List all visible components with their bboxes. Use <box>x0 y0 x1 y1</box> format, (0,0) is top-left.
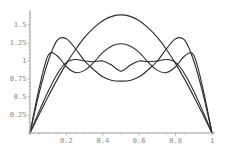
curve-line <box>30 60 212 133</box>
y-tick-label: 0.25 <box>10 111 27 119</box>
curves <box>30 15 212 133</box>
x-tick-label: 0.6 <box>133 137 146 145</box>
x-tick-label: 0.4 <box>96 137 109 145</box>
curve-line <box>30 44 212 133</box>
curve-line <box>30 37 212 133</box>
y-tick-label: 1.5 <box>14 21 27 29</box>
x-ticks: 0.20.40.60.81 <box>39 133 214 145</box>
x-tick-label: 0.2 <box>60 137 73 145</box>
y-tick-label: 0.75 <box>10 75 27 83</box>
y-tick-label: 1 <box>22 57 26 65</box>
y-tick-label: 1.25 <box>10 39 27 47</box>
x-tick-label: 1 <box>210 137 214 145</box>
line-chart: 0.20.40.60.81 0.250.50.7511.251.5 <box>0 0 226 147</box>
x-tick-label: 0.8 <box>169 137 182 145</box>
y-tick-label: 0.5 <box>14 93 27 101</box>
y-ticks: 0.250.50.7511.251.5 <box>10 14 30 129</box>
